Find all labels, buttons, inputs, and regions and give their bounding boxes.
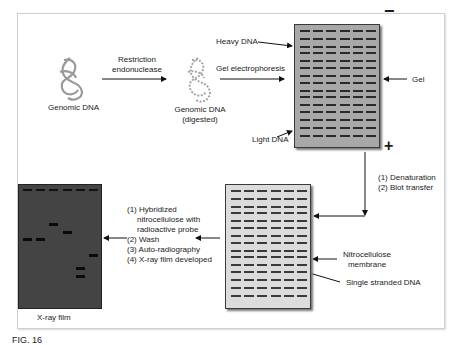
membrane-band	[231, 212, 241, 214]
membrane-band	[231, 250, 241, 252]
hybridization-steps: (1) Hybridized nitrocellulose with radio…	[127, 205, 212, 265]
blot-step-denaturation: (1) Denaturation	[378, 173, 436, 183]
gel-band	[340, 96, 350, 98]
film-hybridized-band	[89, 254, 98, 257]
membrane-band	[257, 212, 267, 214]
gel-band	[353, 127, 363, 129]
membrane-band	[297, 295, 307, 297]
nitrocellulose-membrane	[225, 184, 311, 309]
membrane-band	[244, 250, 254, 252]
single-stranded-leader	[306, 272, 340, 282]
gel-band	[326, 60, 336, 62]
gel-band	[300, 38, 310, 40]
gel-band	[353, 38, 363, 40]
membrane-band	[271, 227, 281, 229]
minus-sign-icon: −	[384, 2, 395, 20]
gel-band	[366, 90, 376, 92]
membrane-band	[244, 212, 254, 214]
gel-band	[300, 111, 310, 113]
membrane-band	[244, 242, 254, 244]
membrane-band	[271, 250, 281, 252]
gel-band	[300, 46, 310, 48]
membrane-band	[284, 198, 294, 200]
membrane-band	[284, 279, 294, 281]
membrane-band	[284, 190, 294, 192]
gel-band	[300, 135, 310, 137]
gel-band	[313, 67, 323, 69]
gel-band	[340, 111, 350, 113]
gel-band	[366, 82, 376, 84]
gel-band	[366, 135, 376, 137]
gel-band	[366, 75, 376, 77]
film-hybridized-band	[23, 238, 32, 241]
membrane-band	[231, 190, 241, 192]
film-well-mark	[63, 189, 72, 191]
membrane-band	[284, 264, 294, 266]
nitrocellulose-label: Nitrocellulose membrane	[336, 250, 398, 270]
gel-band	[353, 52, 363, 54]
gel-band	[313, 82, 323, 84]
film-well-mark	[49, 189, 58, 191]
gel-band	[300, 104, 310, 106]
plus-sign-icon: +	[384, 138, 393, 154]
gel-band	[340, 75, 350, 77]
membrane-band	[297, 227, 307, 229]
gel-band	[366, 104, 376, 106]
gel-band	[340, 127, 350, 129]
membrane-band	[297, 212, 307, 214]
gel-band	[300, 82, 310, 84]
membrane-band	[271, 206, 281, 208]
membrane-band	[284, 250, 294, 252]
membrane-band	[231, 271, 241, 273]
membrane-band	[231, 287, 241, 289]
film-hybridized-band	[76, 267, 85, 270]
membrane-band	[231, 264, 241, 266]
xray-film	[18, 184, 102, 309]
gel-band	[313, 104, 323, 106]
membrane-band	[231, 279, 241, 281]
gel-band	[326, 82, 336, 84]
membrane-band	[257, 264, 267, 266]
membrane-band	[257, 242, 267, 244]
film-hybridized-band	[63, 231, 72, 234]
single-stranded-dna-label: Single stranded DNA	[346, 278, 421, 288]
gel-band	[366, 60, 376, 62]
gel-band	[353, 90, 363, 92]
film-hybridized-band	[36, 238, 45, 241]
gel-band	[340, 90, 350, 92]
membrane-band	[297, 279, 307, 281]
film-hybridized-band	[76, 275, 85, 278]
membrane-band	[244, 220, 254, 222]
gel-band	[313, 75, 323, 77]
membrane-band	[244, 287, 254, 289]
membrane-band	[271, 287, 281, 289]
gel-band	[353, 104, 363, 106]
membrane-band	[284, 271, 294, 273]
agarose-gel	[294, 24, 380, 148]
blot-steps: (1) Denaturation (2) Blot transfer	[378, 173, 436, 193]
gel-band	[353, 119, 363, 121]
membrane-band	[244, 279, 254, 281]
heavy-dna-leader	[258, 42, 292, 46]
figure-caption: FIG. 16	[12, 335, 42, 345]
gel-band	[340, 60, 350, 62]
membrane-band	[297, 271, 307, 273]
membrane-band	[284, 287, 294, 289]
gel-band	[326, 30, 336, 32]
gel-band	[326, 111, 336, 113]
membrane-band	[271, 198, 281, 200]
membrane-band	[231, 242, 241, 244]
membrane-band	[284, 242, 294, 244]
xray-film-label: X-ray film	[37, 313, 71, 323]
nitrocellulose-label-line2: membrane	[336, 260, 398, 270]
membrane-band	[257, 256, 267, 258]
gel-band	[340, 82, 350, 84]
gel-band	[313, 60, 323, 62]
membrane-band	[257, 235, 267, 237]
nitrocellulose-label-line1: Nitrocellulose	[336, 250, 398, 260]
membrane-band	[244, 206, 254, 208]
gel-band	[326, 75, 336, 77]
film-well-mark	[36, 189, 45, 191]
gel-band	[353, 46, 363, 48]
membrane-band	[297, 287, 307, 289]
